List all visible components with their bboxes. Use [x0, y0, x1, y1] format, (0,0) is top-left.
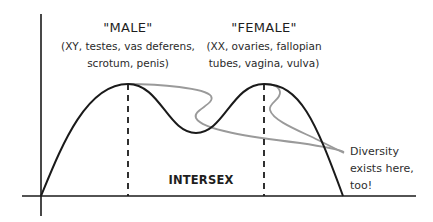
male-details-line2: scrotum, penis) — [55, 55, 201, 72]
male-title: "MALE" — [78, 20, 178, 35]
intersex-label: INTERSEX — [158, 173, 244, 187]
female-details-line1: (XX, ovaries, fallopian — [194, 38, 334, 55]
diversity-line1: Diversity — [350, 143, 414, 160]
diversity-line2: exists here, — [350, 160, 414, 177]
female-title: "FEMALE" — [214, 20, 314, 35]
male-details-line1: (XY, testes, vas deferens, — [55, 38, 201, 55]
diversity-curve — [128, 84, 344, 152]
diversity-curve-female-loop — [264, 84, 344, 153]
female-details-line2: tubes, vagina, vulva) — [194, 55, 334, 72]
diversity-line3: too! — [350, 177, 414, 194]
female-details: (XX, ovaries, fallopian tubes, vagina, v… — [194, 38, 334, 72]
diversity-annotation: Diversity exists here, too! — [350, 143, 414, 194]
male-details: (XY, testes, vas deferens, scrotum, peni… — [55, 38, 201, 72]
